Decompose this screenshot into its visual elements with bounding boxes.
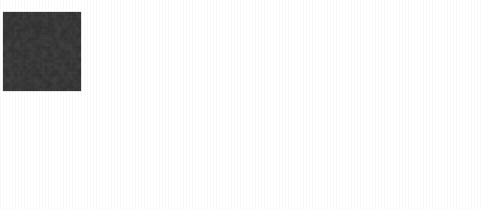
digit-canvas [3,12,81,91]
digit-image [3,12,81,91]
digit-grid-figure [0,0,482,210]
panel-clean-2 [3,1,81,91]
